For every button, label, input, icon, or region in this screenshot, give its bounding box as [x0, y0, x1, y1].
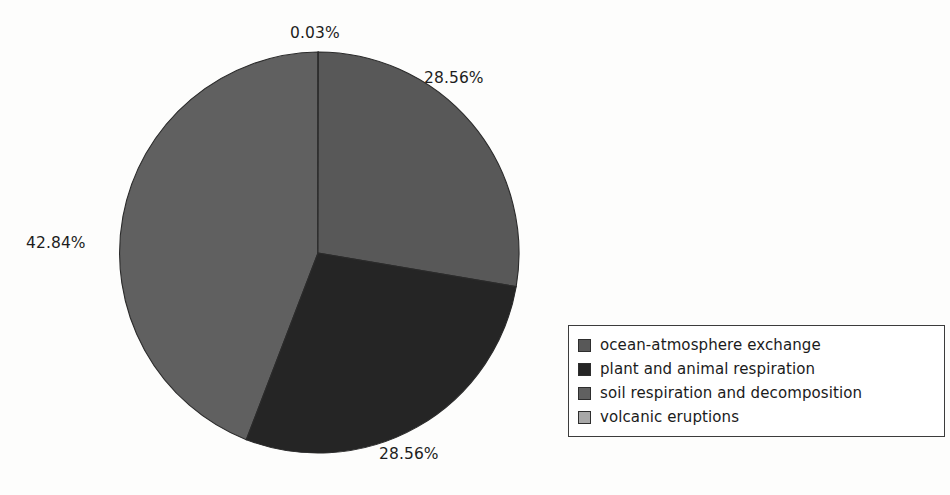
chart-legend: ocean-atmosphere exchange plant and anim…	[568, 325, 945, 437]
pie-slice-ocean-atmosphere-exchange[interactable]	[318, 52, 519, 287]
legend-item-volcanic-eruptions[interactable]: volcanic eruptions	[578, 405, 944, 429]
legend-item-label: ocean-atmosphere exchange	[600, 336, 821, 354]
legend-item-label: volcanic eruptions	[600, 408, 739, 426]
legend-swatch-icon	[578, 411, 591, 424]
legend-item-label: soil respiration and decomposition	[600, 384, 862, 402]
data-label-volcanic-eruptions: 0.03%	[290, 24, 340, 42]
legend-item-label: plant and animal respiration	[600, 360, 815, 378]
data-label-plant-and-animal-respiration: 28.56%	[379, 445, 439, 463]
legend-item-soil-respiration-and-decomposition[interactable]: soil respiration and decomposition	[578, 381, 944, 405]
pie-chart: 0.03% 28.56% 42.84% 28.56% ocean-atmosph…	[0, 0, 950, 495]
legend-swatch-icon	[578, 339, 591, 352]
data-label-ocean-atmosphere-exchange: 28.56%	[424, 69, 484, 87]
legend-swatch-icon	[578, 363, 591, 376]
legend-item-plant-and-animal-respiration[interactable]: plant and animal respiration	[578, 357, 944, 381]
legend-swatch-icon	[578, 387, 591, 400]
data-label-soil-respiration-and-decomposition: 42.84%	[26, 234, 86, 252]
legend-item-ocean-atmosphere-exchange[interactable]: ocean-atmosphere exchange	[578, 333, 944, 357]
